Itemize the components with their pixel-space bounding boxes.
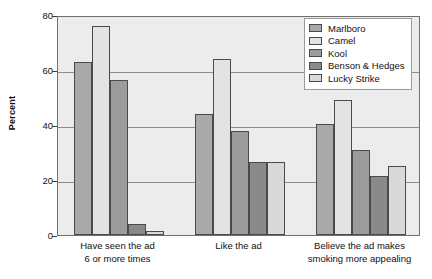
bar-lucky-strike-group-2 <box>267 162 285 235</box>
bar-lucky-strike-group-3 <box>388 166 406 235</box>
x-category-label-line: Believe the ad makes <box>299 240 420 253</box>
bar-benson-hedges-group-2 <box>249 162 267 235</box>
bar-camel-group-3 <box>334 100 352 235</box>
bar-kool-group-3 <box>352 150 370 235</box>
y-tick-label-80: 80 <box>29 11 53 21</box>
bar-chart: Percent 020406080 Have seen the ad6 or m… <box>0 0 432 279</box>
y-tick-label-20: 20 <box>29 176 53 186</box>
x-category-label-3: Believe the ad makessmoking more appeali… <box>299 240 420 265</box>
legend-item-lucky-strike[interactable]: Lucky Strike <box>309 72 405 85</box>
y-axis-title: Percent <box>7 83 17 143</box>
x-category-label-line: Have seen the ad <box>57 240 178 253</box>
legend-label: Marlboro <box>328 24 366 34</box>
legend-item-benson-hedges[interactable]: Benson & Hedges <box>309 60 405 73</box>
x-axis-category-labels: Have seen the ad6 or more timesLike the … <box>57 240 420 278</box>
legend-swatch-icon <box>309 49 322 57</box>
bar-benson-hedges-group-1 <box>128 224 146 235</box>
bar-kool-group-2 <box>231 131 249 236</box>
legend-item-kool[interactable]: Kool <box>309 47 405 60</box>
y-tick-label-0: 0 <box>29 231 53 241</box>
bar-camel-group-1 <box>92 26 110 235</box>
bar-marlboro-group-3 <box>316 124 334 235</box>
legend-label: Kool <box>328 49 347 59</box>
y-tick-label-60: 60 <box>29 66 53 76</box>
x-category-label-line: Like the ad <box>178 240 299 253</box>
legend-swatch-icon <box>309 62 322 70</box>
legend-label: Lucky Strike <box>328 74 380 84</box>
x-category-label-2: Like the ad <box>178 240 299 253</box>
bar-benson-hedges-group-3 <box>370 176 388 235</box>
legend-item-camel[interactable]: Camel <box>309 35 405 48</box>
bar-marlboro-group-1 <box>74 62 92 235</box>
legend-label: Camel <box>328 36 355 46</box>
legend-swatch-icon <box>309 37 322 45</box>
x-category-label-line: 6 or more times <box>57 253 178 266</box>
legend-swatch-icon <box>309 24 322 32</box>
legend: MarlboroCamelKoolBenson & HedgesLucky St… <box>304 18 412 90</box>
y-tick-mark-0 <box>52 236 57 237</box>
bar-camel-group-2 <box>213 59 231 235</box>
y-tick-label-40: 40 <box>29 121 53 131</box>
legend-swatch-icon <box>309 74 322 82</box>
bar-kool-group-1 <box>110 80 128 235</box>
bar-lucky-strike-group-1 <box>146 231 164 235</box>
x-category-label-1: Have seen the ad6 or more times <box>57 240 178 265</box>
bar-marlboro-group-2 <box>195 114 213 235</box>
legend-label: Benson & Hedges <box>328 61 405 71</box>
x-category-label-line: smoking more appealing <box>299 253 420 266</box>
legend-item-marlboro[interactable]: Marlboro <box>309 22 405 35</box>
